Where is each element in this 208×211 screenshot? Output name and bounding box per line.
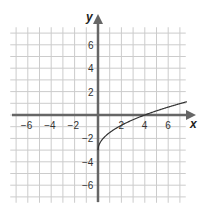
y-tick-label: 6 [88, 40, 94, 51]
x-tick-label: 2 [118, 120, 124, 131]
x-tick-label: 6 [165, 120, 171, 131]
y-axis-label: y [85, 10, 94, 24]
y-tick-label: 2 [88, 87, 94, 98]
y-axis-arrow-icon [93, 14, 103, 24]
x-axis-label: x [189, 117, 198, 131]
x-tick-label: −2 [68, 120, 80, 131]
x-tick-label: −4 [44, 120, 56, 131]
x-tick-label: −6 [21, 120, 33, 131]
y-tick-label: −6 [82, 180, 94, 191]
y-tick-label: −2 [82, 133, 94, 144]
coordinate-plane: −6−4−2246642−2−4−6 x y [0, 0, 208, 211]
x-tick-label: 4 [142, 120, 148, 131]
y-tick-label: −4 [82, 157, 94, 168]
y-tick-label: 4 [88, 63, 94, 74]
